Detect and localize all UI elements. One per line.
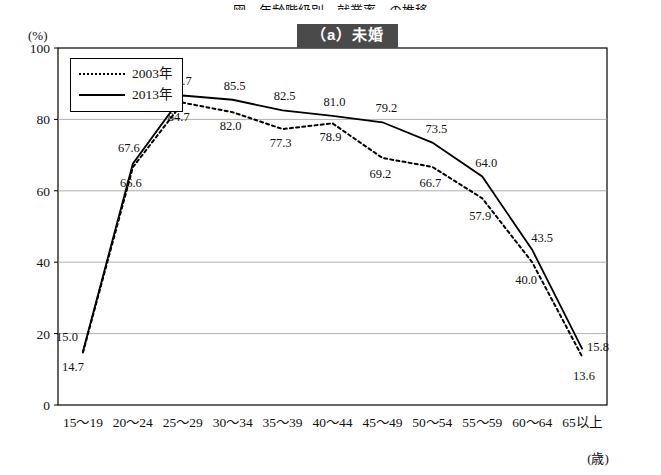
y-axis-unit-label: (%) xyxy=(28,28,48,43)
x-tick-label: 25～29 xyxy=(163,415,203,430)
data-label: 15.8 xyxy=(587,340,609,354)
y-axis-ticks: 020406080100 xyxy=(30,41,58,413)
data-label: 15.0 xyxy=(56,330,78,344)
y-tick-label: 20 xyxy=(37,327,51,342)
y-tick-label: 60 xyxy=(37,184,51,199)
data-label: 57.9 xyxy=(469,209,491,223)
y-tick-label: 80 xyxy=(37,112,51,127)
x-tick-label: 20～24 xyxy=(113,415,153,430)
x-tick-label: 30～34 xyxy=(213,415,253,430)
data-label: 77.3 xyxy=(270,136,292,150)
legend-swatch-solid-icon xyxy=(79,94,125,96)
data-label: 40.0 xyxy=(515,273,537,287)
y-tick-label: 40 xyxy=(37,255,51,270)
y-tick-label: 0 xyxy=(43,398,50,413)
x-tick-label: 40～44 xyxy=(313,415,353,430)
data-label: 78.9 xyxy=(320,130,342,144)
x-tick-label: 50～54 xyxy=(412,415,452,430)
data-label: 66.7 xyxy=(419,176,441,190)
data-label: 13.6 xyxy=(573,369,595,383)
chart-legend: 2003年 2013年 xyxy=(70,58,183,112)
data-label: 82.0 xyxy=(220,119,242,133)
legend-item-2003: 2003年 xyxy=(79,64,172,85)
x-tick-label: 55～59 xyxy=(462,415,502,430)
x-tick-label: 60～64 xyxy=(512,415,552,430)
figure-top-title: 図 年齢階級別 就業率 の推移 xyxy=(0,0,661,10)
data-label: 14.7 xyxy=(62,360,84,374)
data-label: 85.5 xyxy=(224,79,246,93)
data-label: 64.0 xyxy=(475,156,497,170)
legend-swatch-dashed-icon xyxy=(79,73,125,75)
panel-title: （a）未婚 xyxy=(297,24,398,48)
legend-label-2003: 2003年 xyxy=(132,64,172,85)
data-label: 79.2 xyxy=(375,101,397,115)
data-labels: 14.766.684.782.077.378.969.266.757.940.0… xyxy=(56,74,609,383)
legend-label-2013: 2013年 xyxy=(132,85,172,106)
x-axis-unit-label: (歳) xyxy=(587,451,609,466)
gridlines xyxy=(58,119,607,333)
data-label: 73.5 xyxy=(425,122,447,136)
data-label: 82.5 xyxy=(274,89,296,103)
data-label: 43.5 xyxy=(531,231,553,245)
x-tick-label: 45～49 xyxy=(362,415,402,430)
y-tick-label: 100 xyxy=(30,41,51,56)
data-label: 66.6 xyxy=(120,176,142,190)
data-label: 81.0 xyxy=(324,95,346,109)
chart-root: 図 年齢階級別 就業率 の推移 （a）未婚 2003年 2013年 020406… xyxy=(0,0,661,475)
x-axis-ticks: 15～1920～2425～2930～3435～3940～4445～4950～54… xyxy=(63,415,602,430)
x-tick-label: 35～39 xyxy=(263,415,303,430)
legend-item-2013: 2013年 xyxy=(79,85,172,106)
data-label: 67.6 xyxy=(118,141,140,155)
data-label: 69.2 xyxy=(369,167,391,181)
x-tick-label: 15～19 xyxy=(63,415,103,430)
x-tick-label: 65以上 xyxy=(562,415,602,430)
